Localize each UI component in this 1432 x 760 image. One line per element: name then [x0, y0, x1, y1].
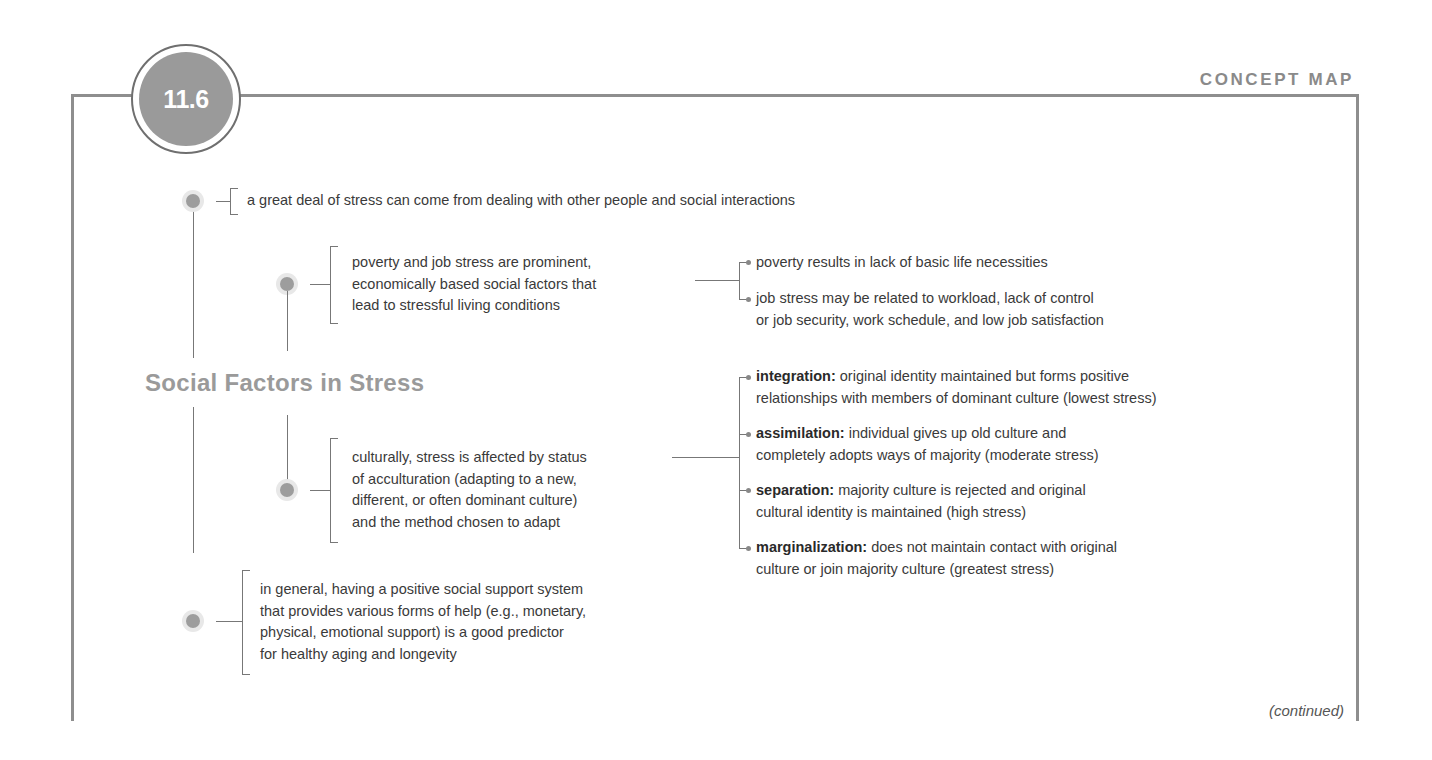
- sub-spine: [287, 291, 288, 351]
- main-spine-lower: [193, 407, 194, 553]
- leaf-job-stress: job stress may be related to workload, l…: [756, 288, 1104, 331]
- arrow-dot-icon: [746, 546, 751, 551]
- node-3-text: culturally, stress is affected by status…: [352, 447, 587, 533]
- concept-title: Social Factors in Stress: [145, 369, 424, 397]
- connector: [672, 457, 739, 458]
- connector: [310, 284, 330, 285]
- arrow-dot-icon: [746, 488, 751, 493]
- node-4-text: in general, having a positive social sup…: [260, 579, 586, 665]
- arrow-dot-icon: [746, 260, 751, 265]
- section-badge: 11.6: [131, 44, 241, 154]
- bracket: [330, 246, 338, 324]
- connector: [695, 280, 739, 281]
- arrow-dot-icon: [746, 432, 751, 437]
- continued-note: (continued): [1269, 702, 1344, 719]
- branch-line: [739, 377, 740, 549]
- connector: [310, 490, 330, 491]
- frame-right-border: [1356, 94, 1359, 721]
- node-bullet-icon: [186, 194, 200, 208]
- concept-map-label: CONCEPT MAP: [1200, 70, 1354, 90]
- frame-left-border: [71, 94, 74, 721]
- node-bullet-icon: [280, 277, 294, 291]
- leaf-poverty: poverty results in lack of basic life ne…: [756, 252, 1048, 274]
- bracket: [230, 188, 238, 215]
- arrow-dot-icon: [746, 375, 751, 380]
- arrow-dot-icon: [746, 297, 751, 302]
- connector: [216, 621, 242, 622]
- node-1-text: a great deal of stress can come from dea…: [247, 190, 795, 212]
- branch-line: [739, 262, 740, 300]
- leaf-integration: integration: original identity maintaine…: [756, 366, 1157, 409]
- leaf-separation: separation: majority culture is rejected…: [756, 480, 1086, 523]
- node-bullet-icon: [280, 483, 294, 497]
- connector: [216, 201, 230, 202]
- section-number: 11.6: [139, 52, 233, 146]
- node-bullet-icon: [186, 614, 200, 628]
- main-spine-upper: [193, 208, 194, 358]
- bracket: [330, 438, 338, 543]
- leaf-marginalization: marginalization: does not maintain conta…: [756, 537, 1117, 580]
- bracket: [242, 570, 250, 675]
- frame-top-border: [72, 94, 1359, 97]
- leaf-assimilation: assimilation: individual gives up old cu…: [756, 423, 1099, 466]
- sub-spine: [287, 415, 288, 483]
- node-2-text: poverty and job stress are prominent, ec…: [352, 252, 596, 317]
